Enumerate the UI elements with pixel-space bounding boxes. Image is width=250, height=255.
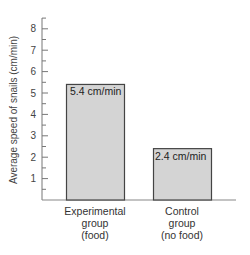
y-tick-label: 5 xyxy=(30,88,36,99)
category-label-control: Control xyxy=(165,205,199,217)
y-tick-label: 6 xyxy=(30,66,36,77)
y-tick-label: 2 xyxy=(30,152,36,163)
y-tick-label: 4 xyxy=(30,109,36,120)
category-note-experimental: (food) xyxy=(81,229,108,241)
y-tick-label: 1 xyxy=(30,173,36,184)
bar-experimental xyxy=(67,84,125,200)
y-tick-label: 3 xyxy=(30,130,36,141)
y-tick-label: 7 xyxy=(30,45,36,56)
bar-value-label-control: 2.4 cm/min xyxy=(155,150,207,162)
category-label-experimental: Experimental xyxy=(64,205,125,217)
category-note-control: (no food) xyxy=(161,229,203,241)
y-axis-title: Average speed of snails (cm/min) xyxy=(8,36,19,184)
bar-value-label-experimental: 5.4 cm/min xyxy=(70,85,122,97)
y-tick-label: 8 xyxy=(30,23,36,34)
y-ticks: 12345678 xyxy=(30,18,48,189)
category-sublabel-experimental: group xyxy=(82,217,109,229)
bar-chart: 12345678 Average speed of snails (cm/min… xyxy=(0,0,250,255)
category-sublabel-control: group xyxy=(169,217,196,229)
